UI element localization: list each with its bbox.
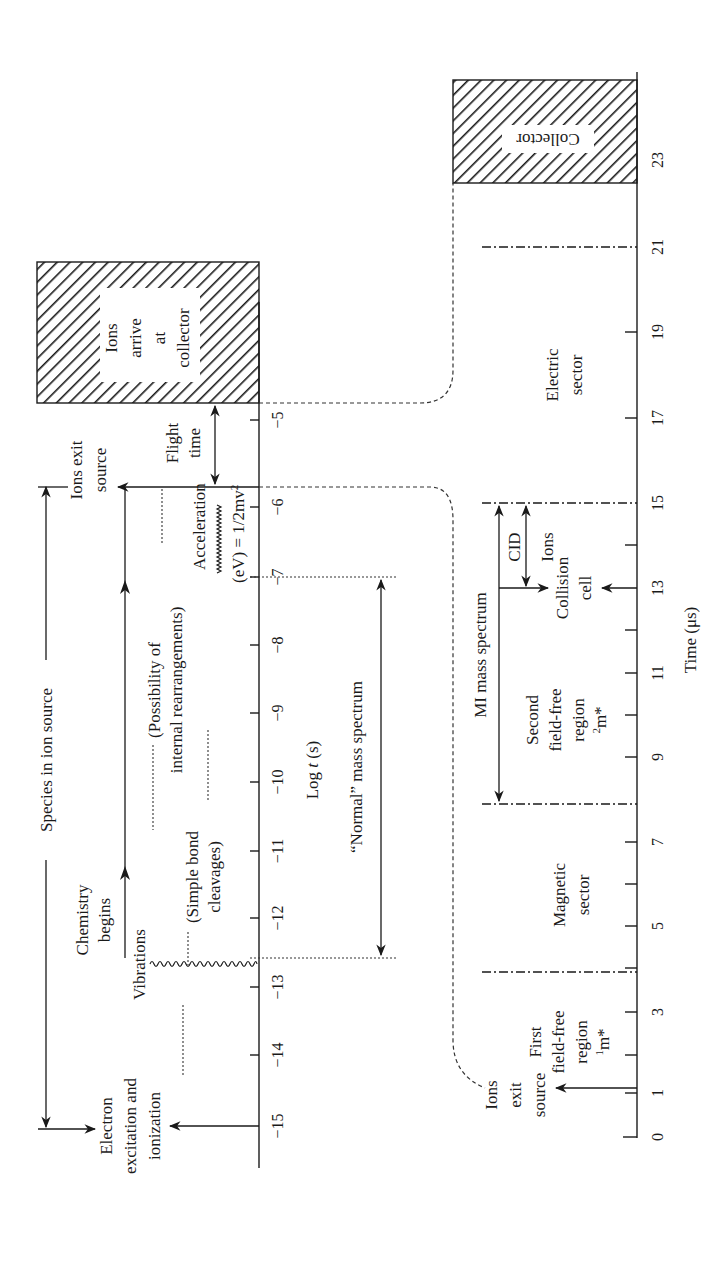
svg-text:−10: −10 <box>269 769 286 794</box>
svg-text:19: 19 <box>649 324 666 340</box>
chemistry-begins-label: Chemistry begins <box>73 884 114 955</box>
svg-text:(Possibility of: (Possibility of <box>145 642 164 738</box>
svg-text:internal rearrangements): internal rearrangements) <box>167 607 186 774</box>
log-t-axis-title: Log t (s) <box>303 741 322 800</box>
svg-text:exit: exit <box>506 1082 525 1108</box>
svg-text:−11: −11 <box>269 839 286 863</box>
mi-mass-spectrum-label: MI mass spectrum <box>471 592 490 718</box>
svg-text:11: 11 <box>649 665 666 680</box>
svg-text:23: 23 <box>649 152 666 168</box>
svg-text:Ions: Ions <box>482 1080 501 1109</box>
collector-text-2: arrive <box>126 318 145 358</box>
svg-text:−8: −8 <box>269 636 286 653</box>
svg-text:−12: −12 <box>269 905 286 930</box>
svg-text:time: time <box>185 428 204 458</box>
svg-text:5: 5 <box>649 922 666 930</box>
svg-text:2m*: 2m* <box>590 706 610 733</box>
svg-text:Electron: Electron <box>97 1097 116 1155</box>
svg-text:Magnetic: Magnetic <box>550 862 569 927</box>
ions-exit-source-label: Ions exit <box>67 440 86 499</box>
electron-excitation-label: Electron excitation and ionization <box>97 1078 164 1174</box>
svg-text:MI mass spectrum: MI mass spectrum <box>471 592 490 718</box>
second-field-free-region-label: Second field-free region 2m* <box>523 688 610 751</box>
vibrations-label: Vibrations <box>130 929 149 1000</box>
time-axis-title: Time (μs) <box>681 607 700 674</box>
svg-text:−14: −14 <box>269 1042 286 1067</box>
ions-exit-source-bottom-label: Ions exit source <box>482 1073 549 1117</box>
svg-text:cleavages): cleavages) <box>205 841 224 913</box>
svg-text:−6: −6 <box>269 498 286 515</box>
svg-text:Chemistry: Chemistry <box>73 884 92 955</box>
svg-text:region: region <box>569 698 588 742</box>
collector-text-3: at <box>150 332 169 345</box>
time-tick-labels: 0 1 3 5 7 9 11 13 15 17 19 21 23 <box>649 152 666 1141</box>
svg-text:sector: sector <box>567 354 586 395</box>
time-us-panel: Collector 0 1 3 5 <box>453 72 700 1141</box>
svg-text:field-free: field-free <box>549 1010 568 1073</box>
svg-text:(Simple bond: (Simple bond <box>183 830 202 923</box>
svg-text:CID: CID <box>505 532 524 561</box>
vibration-wave-icon <box>150 962 257 967</box>
svg-text:Collision: Collision <box>553 556 572 619</box>
collision-cell-label: Collision cell <box>553 556 595 619</box>
first-field-free-region-label: First field-free region 1m* <box>526 1010 613 1073</box>
svg-text:Flight: Flight <box>163 422 182 463</box>
mass-spectrometry-timescale-diagram: Ions arrive at collector <box>0 0 717 1263</box>
log-t-tick-labels: −5 −6 −7 −8 −9 −10 −11 −12 −13 −14 −15 <box>269 411 286 1138</box>
svg-text:15: 15 <box>649 495 666 511</box>
svg-text:cell: cell <box>576 575 595 600</box>
collector-connector <box>259 183 453 403</box>
svg-text:field-free: field-free <box>546 688 565 751</box>
svg-text:Time (μs): Time (μs) <box>681 607 700 674</box>
svg-text:Log t (s): Log t (s) <box>303 741 322 800</box>
svg-text:7: 7 <box>649 838 666 846</box>
svg-text:Vibrations: Vibrations <box>130 929 149 1000</box>
svg-text:21: 21 <box>649 239 666 255</box>
electric-sector-label: Electric sector <box>543 348 586 401</box>
svg-text:−15: −15 <box>269 1113 286 1138</box>
svg-text:Second: Second <box>523 694 542 745</box>
svg-text:sector: sector <box>574 874 593 915</box>
svg-text:excitation and: excitation and <box>121 1078 140 1174</box>
svg-text:−13: −13 <box>269 974 286 999</box>
svg-text:“Normal” mass spectrum: “Normal” mass spectrum <box>347 681 366 853</box>
ions-arrive-collector-box: Ions arrive at collector <box>37 262 259 403</box>
magnetic-sector-label: Magnetic sector <box>550 862 593 927</box>
normal-mass-spectrum-label: “Normal” mass spectrum <box>347 681 366 853</box>
svg-text:Acceleration: Acceleration <box>190 483 209 570</box>
collector-box: Collector <box>453 80 637 183</box>
svg-text:Collector: Collector <box>516 130 580 149</box>
svg-text:source: source <box>91 448 110 492</box>
collector-text-1: Ions <box>102 323 121 352</box>
svg-text:Ions exit: Ions exit <box>67 440 86 499</box>
svg-text:(eV) = 1/2mv2: (eV) = 1/2mv2 <box>228 485 248 583</box>
svg-text:−9: −9 <box>269 704 286 721</box>
svg-text:Electric: Electric <box>543 348 562 401</box>
svg-text:17: 17 <box>649 410 666 426</box>
collector-text-4: collector <box>174 308 193 368</box>
simple-bond-cleavages-label: (Simple bond cleavages) <box>183 830 224 923</box>
svg-text:−5: −5 <box>269 411 286 428</box>
svg-text:region: region <box>572 1020 591 1064</box>
svg-text:0: 0 <box>649 1133 666 1141</box>
acceleration-wave-icon <box>217 505 221 573</box>
species-in-ion-source-label: Species in ion source <box>37 688 56 832</box>
svg-text:Species in ion source: Species in ion source <box>37 688 56 832</box>
svg-text:9: 9 <box>649 753 666 761</box>
svg-text:source: source <box>530 1073 549 1117</box>
time-ticks <box>623 332 637 1137</box>
svg-text:3: 3 <box>649 1008 666 1016</box>
svg-text:First: First <box>526 1026 545 1057</box>
flight-time-label: Flight <box>163 422 182 463</box>
log-time-panel: Ions arrive at collector <box>36 262 398 1174</box>
log-t-ticks <box>250 420 259 1055</box>
cid-label: CID <box>505 532 524 561</box>
internal-rearrangements-label: (Possibility of internal rearrangements) <box>145 607 186 774</box>
acceleration-label: Acceleration (eV) = 1/2mv2 <box>190 483 248 583</box>
svg-text:1m*: 1m* <box>593 1028 613 1055</box>
svg-text:13: 13 <box>649 580 666 596</box>
svg-text:1: 1 <box>649 1089 666 1097</box>
svg-text:ionization: ionization <box>145 1092 164 1160</box>
svg-text:begins: begins <box>95 898 114 942</box>
